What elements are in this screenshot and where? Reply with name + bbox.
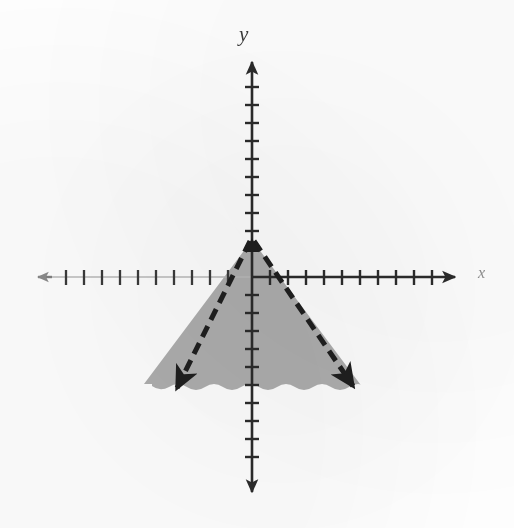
y-axis-label: y [239,22,248,47]
coordinate-plane-figure [0,0,514,528]
x-axis-label: x [478,264,485,282]
